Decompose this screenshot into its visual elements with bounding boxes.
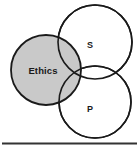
circle-label-ethics: Ethics (28, 65, 57, 76)
circle-label-s: S (87, 40, 93, 50)
circle-label-p: P (87, 104, 93, 114)
venn-diagram-canvas: Ethics S P (0, 0, 139, 151)
venn-diagram-figure: Ethics S P (0, 0, 139, 151)
